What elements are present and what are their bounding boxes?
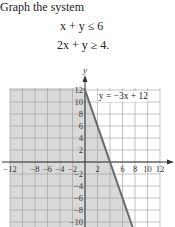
x-tick-label: 10 bbox=[143, 164, 152, 174]
y-tick-label: −4 bbox=[74, 181, 84, 191]
x-tick-label: −4 bbox=[55, 164, 65, 174]
x-tick-label: 12 bbox=[156, 164, 165, 174]
x-axis-arrow-icon bbox=[167, 160, 174, 165]
x-tick-label: 6 bbox=[120, 164, 124, 174]
y-tick-label: −8 bbox=[74, 205, 83, 215]
y-tick-label: 8 bbox=[79, 109, 83, 119]
y-tick-label: 10 bbox=[75, 97, 84, 107]
y-tick-label: 6 bbox=[79, 121, 83, 131]
y-axis-label: y bbox=[82, 65, 87, 75]
y-tick-label: −2 bbox=[74, 169, 83, 179]
x-tick-label: 2 bbox=[95, 164, 99, 174]
y-tick-label: −6 bbox=[74, 193, 83, 203]
x-tick-label: −6 bbox=[43, 164, 52, 174]
x-tick-label: −12 bbox=[3, 164, 16, 174]
y-tick-label: 12 bbox=[75, 85, 84, 95]
shaded-region bbox=[10, 88, 133, 227]
x-tick-label: −8 bbox=[30, 164, 39, 174]
x-tick-label: 8 bbox=[133, 164, 137, 174]
line-equation-label: y = −3x + 12 bbox=[99, 91, 149, 101]
coordinate-graph: y−12−8−6−4−2268101212108642−2−4−6−8−10y … bbox=[0, 0, 175, 227]
y-tick-label: 2 bbox=[79, 145, 83, 155]
y-axis-arrow-icon bbox=[83, 75, 88, 82]
y-tick-label: −10 bbox=[70, 217, 83, 227]
